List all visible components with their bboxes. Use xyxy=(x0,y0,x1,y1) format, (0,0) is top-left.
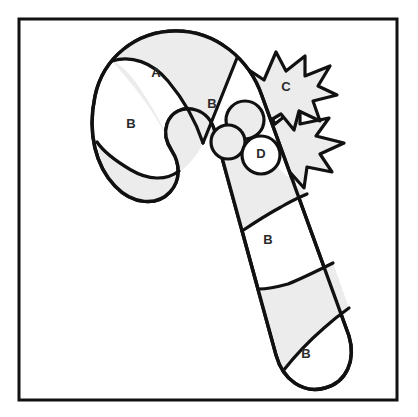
figure-canvas: A B B C D B B xyxy=(0,0,418,417)
label-b-shaft-upper: B xyxy=(263,232,272,247)
label-c-holly-upper: C xyxy=(281,79,291,94)
label-d-berry-front: D xyxy=(256,146,265,161)
label-b-shaft-lower: B xyxy=(301,346,310,361)
label-a-hook-stripe: A xyxy=(151,65,161,80)
label-b-hook-outer: B xyxy=(126,116,135,131)
candy-cane-diagram: A B B C D B B xyxy=(0,0,418,417)
label-b-hook-inner: B xyxy=(207,96,216,111)
holly-berry-left xyxy=(211,125,245,159)
